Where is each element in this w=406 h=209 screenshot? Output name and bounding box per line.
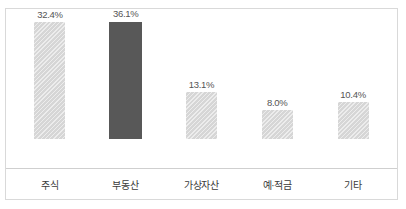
x-axis-category-labels: 주식 부동산 가상자산 예·적금 기타	[6, 169, 397, 199]
x-tick-label-jusik: 주식	[12, 177, 88, 192]
bar-value-label: 10.4%	[340, 90, 365, 100]
bar-value-label: 8.0%	[267, 98, 287, 108]
bar-group-gasangjasan: 13.1%	[164, 9, 240, 139]
x-tick-label-gita: 기타	[315, 177, 391, 192]
bar-series: 32.4% 36.1% 13.1% 8.0% 10.4%	[6, 9, 397, 139]
bar-rect	[109, 22, 142, 140]
bar-rect	[262, 110, 293, 139]
bar-value-label: 13.1%	[189, 80, 214, 90]
bar-rect	[186, 92, 217, 139]
bar-value-label: 32.4%	[37, 10, 62, 20]
bar-value-label: 36.1%	[113, 9, 138, 19]
chart-frame: 32.4% 36.1% 13.1% 8.0% 10.4% 주식	[5, 8, 398, 200]
bar-rect	[34, 22, 65, 139]
bar-group-yejeokgeum: 8.0%	[239, 9, 315, 139]
bar-group-jusik: 32.4%	[12, 9, 88, 139]
bar-rect	[338, 102, 369, 139]
bar-group-gita: 10.4%	[315, 9, 391, 139]
x-tick-label-yejeokgeum: 예·적금	[239, 177, 315, 192]
plot-area: 32.4% 36.1% 13.1% 8.0% 10.4%	[6, 9, 397, 169]
bar-group-budongsan: 36.1%	[88, 9, 164, 139]
x-tick-label-gasangjasan: 가상자산	[164, 177, 240, 192]
x-tick-label-budongsan: 부동산	[88, 177, 164, 192]
